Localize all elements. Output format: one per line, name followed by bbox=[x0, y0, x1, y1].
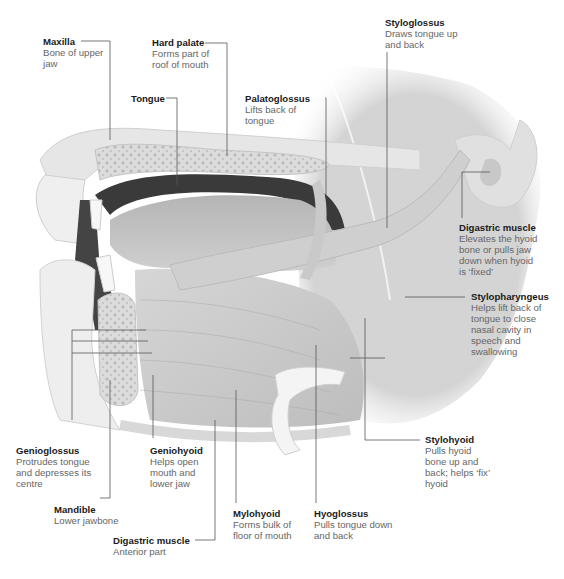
label-styloglossus: Styloglossus Draws tongue up and back bbox=[385, 17, 465, 50]
label-title: Hyoglossus bbox=[314, 508, 394, 519]
label-desc: Pulls hyoid bone up and back; helps ‘fix… bbox=[425, 445, 495, 489]
anatomy-illustration bbox=[0, 0, 564, 579]
label-title: Mylohyoid bbox=[233, 508, 293, 519]
label-genioglossus: Genioglossus Protrudes tongue and depres… bbox=[16, 445, 96, 489]
label-title: Digastric muscle bbox=[459, 222, 539, 233]
label-mandible: Mandible Lower jawbone bbox=[54, 504, 134, 526]
label-title: Digastric muscle bbox=[113, 535, 203, 546]
label-desc: Lower jawbone bbox=[54, 515, 134, 526]
label-desc: Pulls tongue down and back bbox=[314, 519, 394, 541]
label-maxilla: Maxilla Bone of upper jaw bbox=[43, 36, 113, 69]
label-desc: Bone of upper jaw bbox=[43, 47, 113, 69]
mandible-icon bbox=[98, 293, 138, 406]
label-title: Tongue bbox=[131, 93, 191, 104]
label-desc: Forms part of roof of mouth bbox=[152, 48, 227, 70]
label-desc: Lifts back of tongue bbox=[245, 104, 325, 126]
label-title: Geniohyoid bbox=[150, 445, 210, 456]
label-title: Palatoglossus bbox=[245, 93, 325, 104]
label-geniohyoid: Geniohyoid Helps open mouth and lower ja… bbox=[150, 445, 210, 489]
label-desc: Helps lift back of tongue to close nasal… bbox=[471, 302, 551, 357]
label-palatoglossus: Palatoglossus Lifts back of tongue bbox=[245, 93, 325, 126]
label-stylopharyngeus: Stylopharyngeus Helps lift back of tongu… bbox=[471, 291, 551, 357]
label-desc: Draws tongue up and back bbox=[385, 28, 465, 50]
label-title: Mandible bbox=[54, 504, 134, 515]
label-digastric-posterior: Digastric muscle Elevates the hyoid bone… bbox=[459, 222, 539, 277]
label-desc: Elevates the hyoid bone or pulls jaw dow… bbox=[459, 233, 539, 277]
label-mylohyoid: Mylohyoid Forms bulk of floor of mouth bbox=[233, 508, 293, 541]
label-title: Styloglossus bbox=[385, 17, 465, 28]
label-digastric-anterior: Digastric muscle Anterior part bbox=[113, 535, 203, 557]
label-title: Hard palate bbox=[152, 37, 227, 48]
label-title: Genioglossus bbox=[16, 445, 96, 456]
label-title: Stylopharyngeus bbox=[471, 291, 551, 302]
label-desc: Helps open mouth and lower jaw bbox=[150, 456, 210, 489]
label-stylohyoid: Stylohyoid Pulls hyoid bone up and back;… bbox=[425, 434, 495, 489]
label-title: Stylohyoid bbox=[425, 434, 495, 445]
label-hyoglossus: Hyoglossus Pulls tongue down and back bbox=[314, 508, 394, 541]
label-hard-palate: Hard palate Forms part of roof of mouth bbox=[152, 37, 227, 70]
label-desc: Anterior part bbox=[113, 546, 203, 557]
label-tongue: Tongue bbox=[131, 93, 191, 104]
label-desc: Forms bulk of floor of mouth bbox=[233, 519, 293, 541]
label-desc: Protrudes tongue and depresses its centr… bbox=[16, 456, 96, 489]
label-title: Maxilla bbox=[43, 36, 113, 47]
